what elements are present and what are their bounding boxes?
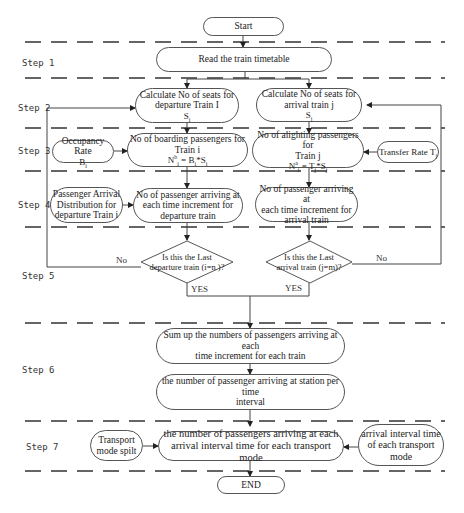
calc-seats-departure-node: Calculate No of seats for departure Trai… bbox=[135, 88, 239, 123]
transfer-rate-text: Transfer Rate Tj bbox=[379, 147, 437, 158]
arrival-distribution-node: Passenger Arrival Distribution for depar… bbox=[50, 187, 123, 223]
arriving-arrival-line3: arrival train bbox=[284, 215, 329, 226]
per-transport-mode-node: the number of passengers arriving at eac… bbox=[158, 431, 344, 461]
edge-label-yes-left: YES bbox=[191, 284, 208, 294]
arrival-interval-time-line1: arrival interval time bbox=[361, 428, 440, 440]
alighting-passengers-line2: Train j bbox=[295, 151, 320, 162]
step-label-3: Step 3 bbox=[18, 146, 51, 156]
decision-last-departure: Is this the Last departure train (i=n )? bbox=[143, 252, 231, 272]
edge-label-yes-right: YES bbox=[285, 283, 302, 293]
boarding-passengers-line1: No of boarding passengers for bbox=[130, 134, 245, 145]
boarding-passengers-formula: Nbi = Bi*Si bbox=[168, 155, 208, 166]
step-label-4: Step 4 bbox=[18, 200, 51, 210]
occupancy-rate-line1: Occupancy Rate bbox=[53, 136, 113, 157]
boarding-passengers-node: No of boarding passengers for Train i Nb… bbox=[127, 133, 248, 167]
alighting-passengers-formula: Nai = Tj*Sj bbox=[289, 161, 328, 172]
arriving-departure-line2: each time increment for bbox=[143, 200, 233, 211]
arriving-departure-line1: No of passenger arriving at bbox=[136, 190, 239, 201]
station-per-interval-line2: interval bbox=[236, 397, 265, 408]
arriving-arrival-line2: each time increment for bbox=[261, 205, 351, 216]
read-timetable-node: Read the train timetable bbox=[156, 47, 332, 72]
calc-seats-arrival-symbol: Sj bbox=[306, 110, 313, 121]
read-timetable-text: Read the train timetable bbox=[198, 54, 289, 65]
sum-up-line2: time increment for each train bbox=[195, 351, 305, 362]
calc-seats-arrival-line1: Calculate No of seats for bbox=[262, 89, 356, 100]
arriving-departure-line3: departure train bbox=[160, 211, 216, 222]
transport-mode-split-line2: mode spilt bbox=[97, 446, 137, 457]
end-node: END bbox=[217, 476, 285, 494]
step-label-2: Step 2 bbox=[18, 103, 51, 113]
per-transport-mode-line1: the number of passengers arriving at eac… bbox=[164, 428, 339, 440]
sum-up-line1: Sum up the numbers of passengers arrivin… bbox=[157, 330, 344, 351]
end-text: END bbox=[241, 480, 261, 491]
start-node: Start bbox=[203, 17, 284, 36]
edge-label-no-left: No bbox=[116, 255, 127, 265]
arrival-interval-time-line3: mode bbox=[390, 451, 412, 463]
start-text: Start bbox=[235, 21, 253, 32]
edge-label-no-right: No bbox=[376, 253, 387, 263]
station-per-interval-line1: the number of passenger arriving at stat… bbox=[157, 376, 344, 397]
decision-last-arrival: Is this the Last arrival train (j=m)? bbox=[266, 252, 352, 272]
alighting-passengers-node: No of alighting passengers for Train j N… bbox=[252, 133, 364, 168]
calc-seats-arrival-node: Calculate No of seats for arrival train … bbox=[256, 88, 362, 122]
arriving-departure-node: No of passenger arriving at each time in… bbox=[133, 188, 243, 223]
step-label-1: Step 1 bbox=[22, 58, 55, 68]
arrival-distribution-line3: departure Train i bbox=[55, 210, 118, 221]
arriving-arrival-line1: No of passenger arriving at bbox=[256, 184, 357, 205]
transport-mode-split-line1: Transport bbox=[98, 435, 135, 446]
arrival-interval-time-line2: of each transport bbox=[367, 439, 434, 451]
calc-seats-departure-line2: departure Train I bbox=[155, 100, 219, 111]
step-label-5: Step 5 bbox=[22, 271, 55, 281]
arrival-distribution-line2: Distribution for bbox=[57, 200, 116, 211]
step-label-7: Step 7 bbox=[26, 442, 59, 452]
boarding-passengers-line2: Train i bbox=[175, 145, 200, 156]
station-per-interval-node: the number of passenger arriving at stat… bbox=[156, 374, 345, 410]
flowchart-canvas: Step 1 Step 2 Step 3 Step 4 Step 5 Step … bbox=[0, 0, 464, 513]
occupancy-rate-symbol: Bi bbox=[79, 157, 87, 168]
sum-up-node: Sum up the numbers of passengers arrivin… bbox=[156, 328, 345, 364]
occupancy-rate-node: Occupancy Rate Bi bbox=[52, 140, 114, 163]
arrival-interval-time-node: arrival interval time of each transport … bbox=[358, 424, 444, 466]
calc-seats-departure-symbol: Si bbox=[184, 111, 191, 122]
decision-last-arrival-line2: arrival train (j=m)? bbox=[266, 262, 352, 272]
arrival-distribution-line1: Passenger Arrival bbox=[53, 189, 120, 200]
calc-seats-departure-line1: Calculate No of seats for bbox=[140, 90, 234, 101]
transfer-rate-node: Transfer Rate Tj bbox=[377, 141, 439, 163]
decision-last-departure-line1: Is this the Last bbox=[143, 252, 231, 262]
decision-last-departure-line2: departure train (i=n )? bbox=[143, 262, 231, 272]
arriving-arrival-node: No of passenger arriving at each time in… bbox=[255, 187, 358, 222]
calc-seats-arrival-line2: arrival train j bbox=[284, 100, 334, 111]
decision-last-arrival-line1: Is this the Last bbox=[266, 252, 352, 262]
transport-mode-split-node: Transport mode spilt bbox=[90, 430, 143, 461]
alighting-passengers-line1: No of alighting passengers for bbox=[253, 130, 363, 151]
per-transport-mode-line2: arrival interval time for each transport… bbox=[159, 440, 343, 464]
step-label-6: Step 6 bbox=[22, 365, 55, 375]
